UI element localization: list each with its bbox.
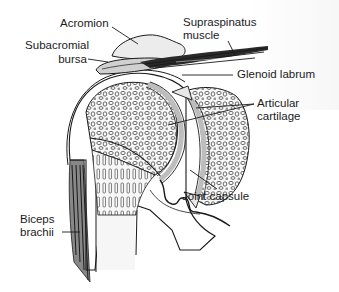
label-supraspinatus-line2: muscle [183,29,219,42]
label-articular-cartilage-line1: Articular [257,97,299,110]
label-biceps-brachii-line2: brachii [20,226,54,239]
shoulder-diagram: Acromion Subacromial bursa Supraspinatus… [0,0,339,292]
label-glenoid-labrum: Glenoid labrum [237,68,315,81]
label-joint-capsule: Joint capsule [182,190,249,203]
label-subacromial-bursa-line1: Subacromial [19,39,89,52]
leader-bursa [88,59,108,62]
acromion [112,35,185,59]
label-biceps-brachii-line1: Biceps [20,213,55,226]
biceps-brachii [69,160,90,282]
label-articular-cartilage-line2: cartilage [257,110,300,123]
label-subacromial-bursa-line2: bursa [19,53,87,66]
background-shade [250,0,339,110]
label-acromion: Acromion [60,17,109,30]
label-supraspinatus-line1: Supraspinatus [183,16,257,29]
